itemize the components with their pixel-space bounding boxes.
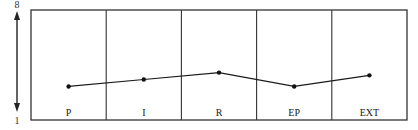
category-label: R	[216, 107, 223, 118]
arrow-up-icon	[14, 11, 20, 20]
data-point	[292, 84, 296, 88]
data-markers	[66, 70, 371, 88]
profile-chart: 8 1 PIREPEXT	[0, 0, 418, 130]
chart-frame	[31, 10, 407, 120]
column-dividers	[106, 10, 332, 120]
y-axis-top-label: 8	[15, 0, 20, 10]
data-point	[217, 70, 221, 74]
arrow-down-icon	[14, 103, 20, 112]
data-point	[367, 73, 371, 77]
category-label: P	[66, 107, 72, 118]
category-label: EXT	[360, 107, 379, 118]
data-point	[66, 84, 70, 88]
y-axis-arrow	[14, 11, 20, 112]
y-axis-bottom-label: 1	[15, 115, 20, 126]
category-label: I	[142, 107, 145, 118]
data-point	[142, 77, 146, 81]
category-label: EP	[288, 107, 300, 118]
